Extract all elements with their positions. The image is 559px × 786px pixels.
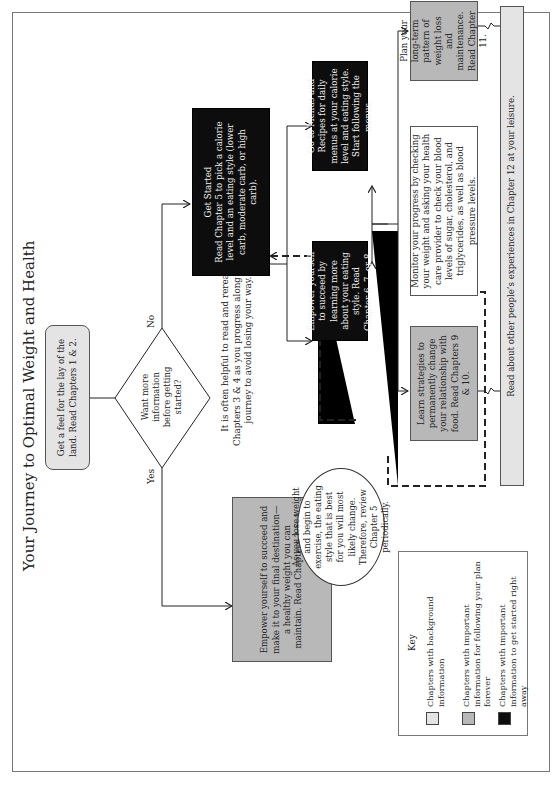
flowchart-canvas: Your Journey to Optimal Weight and Healt… [0,0,559,786]
legend-title: Key [407,634,417,651]
experiences-box: Read about other people’s experiences in… [500,6,524,486]
legend-swatch-dark [498,712,511,725]
legend-label: Chapters with background information [425,555,446,707]
legend-item-forever: Chapters with important information for … [461,555,493,725]
strategies-box: Learn strategies to permanently change y… [410,326,478,441]
get-started-body: Read Chapter 5 to pick a calorie level a… [214,115,259,269]
legend-swatch-mid [462,712,475,725]
get-started-title: Get Started [203,167,214,218]
legend-label: Chapters with important information for … [461,555,493,707]
long-term-box: Plan your long-term pattern of weight lo… [410,1,478,81]
menus-box: Go to Menus and Recipes for daily menus … [312,61,368,171]
eating-style-box: Empower yourself to succeed by learning … [312,241,368,341]
monitor-box: Monitor your progress by checking your w… [410,126,478,296]
legend-key: Key Chapters with background information… [398,551,528,736]
yes-label: Yes [146,469,156,484]
review-oval-note: As you lose weight and begin to exercise… [297,468,385,586]
reread-note: It is often helpful to read and reread C… [220,250,255,450]
legend-swatch-light [426,712,439,725]
legend-label: Chapters with important information to g… [497,555,529,707]
lay-of-land-box: Get a feel for the lay of the land. Read… [45,325,90,470]
decision-text: Want more information before getting sta… [140,363,184,431]
no-label: No [146,315,156,328]
get-started-box: Get Started Read Chapter 5 to pick a cal… [192,108,270,276]
legend-item-background: Chapters with background information [425,555,446,725]
legend-item-get-started: Chapters with important information to g… [497,555,529,725]
page-title: Your Journey to Optimal Weight and Healt… [20,241,38,571]
